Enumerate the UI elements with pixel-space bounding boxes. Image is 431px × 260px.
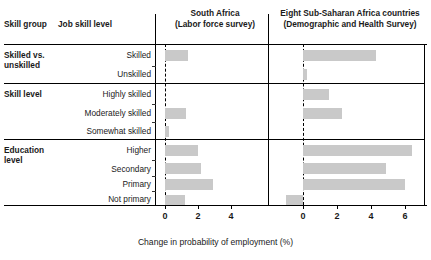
panel-header-sub-saharan-line1: Eight Sub-Saharan Africa countries bbox=[272, 8, 428, 19]
bar-higher bbox=[165, 145, 198, 156]
row-label-unskilled: Unskilled bbox=[5, 69, 155, 79]
bar-primary bbox=[303, 179, 405, 190]
plot-right-border bbox=[424, 44, 425, 205]
x-tick-right-0 bbox=[303, 205, 304, 209]
bar-moderately-skilled bbox=[165, 108, 186, 119]
panel-header-south-africa-line2: (Labor force survey) bbox=[160, 19, 270, 30]
bar-skilled bbox=[165, 50, 188, 61]
bar-somewhat-skilled bbox=[165, 126, 169, 137]
panel-header-sub-saharan-line2: (Demographic and Health Survey) bbox=[272, 19, 428, 30]
panel-header-south-africa: South Africa (Labor force survey) bbox=[160, 8, 270, 30]
row-label-somewhat-skilled: Somewhat skilled bbox=[5, 126, 155, 136]
x-tick-right-4 bbox=[371, 205, 372, 209]
row-label-highly-skilled: Highly skilled bbox=[5, 89, 155, 99]
row-label-primary: Primary bbox=[5, 179, 155, 189]
bar-not-primary bbox=[165, 195, 185, 205]
x-ticklabel-right-4: 4 bbox=[361, 211, 381, 221]
row-label-moderately-skilled: Moderately skilled bbox=[5, 108, 155, 118]
bar-highly-skilled bbox=[303, 89, 329, 100]
row-label-skilled: Skilled bbox=[5, 50, 155, 60]
x-tick-left-0 bbox=[165, 205, 166, 209]
bar-primary bbox=[165, 179, 213, 190]
chart-figure: Skill group Job skill level South Africa… bbox=[0, 0, 431, 260]
plot-panel-sub-saharan bbox=[269, 44, 424, 205]
bar-skilled bbox=[303, 50, 376, 61]
bar-unskilled bbox=[303, 69, 307, 80]
row-label-not-primary: Not primary bbox=[5, 194, 155, 204]
x-tick-right-6 bbox=[405, 205, 406, 209]
row-label-secondary: Secondary bbox=[5, 164, 155, 174]
bar-secondary bbox=[165, 163, 201, 174]
x-ticklabel-right-6: 6 bbox=[395, 211, 415, 221]
x-tick-left-4 bbox=[231, 205, 232, 209]
axis-line bbox=[4, 205, 427, 206]
x-tick-right-2 bbox=[337, 205, 338, 209]
x-ticklabel-left-2: 2 bbox=[188, 211, 208, 221]
x-ticklabel-right-2: 2 bbox=[327, 211, 347, 221]
bar-not-primary bbox=[286, 195, 303, 205]
x-tick-left-2 bbox=[198, 205, 199, 209]
x-ticklabel-left-4: 4 bbox=[221, 211, 241, 221]
panel-header-sub-saharan: Eight Sub-Saharan Africa countries (Demo… bbox=[272, 8, 428, 30]
plot-panel-south-africa bbox=[156, 44, 268, 205]
bar-moderately-skilled bbox=[303, 108, 342, 119]
x-ticklabel-right-0: 0 bbox=[293, 211, 313, 221]
x-axis-title: Change in probability of employment (%) bbox=[0, 237, 431, 247]
column-header-job-skill-level: Job skill level bbox=[58, 19, 158, 30]
bar-secondary bbox=[303, 163, 386, 174]
bar-higher bbox=[303, 145, 412, 156]
panel-header-south-africa-line1: South Africa bbox=[160, 8, 270, 19]
x-ticklabel-left-0: 0 bbox=[155, 211, 175, 221]
row-label-higher: Higher bbox=[5, 145, 155, 155]
